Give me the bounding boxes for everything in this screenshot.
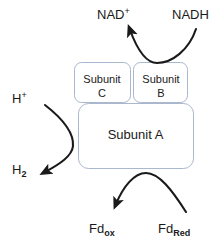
label-nad-plus: NAD+: [97, 8, 130, 21]
label-h2-subscript: 2: [21, 169, 26, 179]
arrow-hplus-to-h2: [45, 105, 73, 172]
label-h2: H2: [12, 163, 26, 176]
label-nad-plus-base: NAD: [97, 7, 124, 22]
diagram-vector-layer: [0, 0, 224, 246]
label-fd-red-subscript: Red: [173, 228, 190, 238]
label-nadh-base: NADH: [172, 7, 209, 22]
label-h-plus-superscript: +: [21, 90, 26, 100]
subunit-a-label: Subunit A: [78, 127, 193, 143]
subunit-a-label-line1: Subunit A: [78, 127, 193, 143]
label-nadh: NADH: [172, 8, 209, 21]
subunit-c-label-line1: Subunit: [74, 73, 130, 87]
label-h-plus-base: H: [12, 91, 21, 106]
subunit-b-label-line1: Subunit: [134, 73, 188, 87]
subunit-b-label-line2: B: [134, 87, 188, 101]
subunit-c-label-line2: C: [74, 87, 130, 101]
arrow-fdred-to-fdox: [116, 173, 186, 212]
label-h-plus: H+: [12, 92, 27, 105]
label-fd-ox: Fdox: [89, 222, 115, 235]
label-fd-red-base: Fd: [158, 221, 173, 236]
label-fd-ox-subscript: ox: [104, 228, 115, 238]
subunit-b-label: Subunit B: [134, 73, 188, 101]
arrow-nadh-to-nad: [130, 29, 196, 63]
label-fd-ox-base: Fd: [89, 221, 104, 236]
subunit-c-label: Subunit C: [74, 73, 130, 101]
label-fd-red: FdRed: [158, 222, 190, 235]
diagram-canvas: Subunit C Subunit B Subunit A NAD+ NADH …: [0, 0, 224, 246]
label-h2-base: H: [12, 162, 21, 177]
label-nad-plus-superscript: +: [124, 6, 129, 16]
